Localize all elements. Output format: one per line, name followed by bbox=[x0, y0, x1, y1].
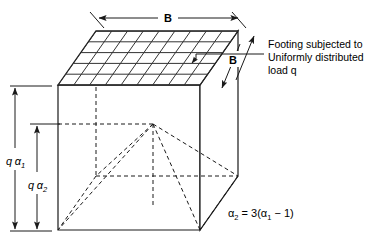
alpha-relation-equation: α2 = 3(α1 − 1) bbox=[228, 207, 294, 222]
dim-ext-left-tick bbox=[90, 12, 104, 28]
dimension-q-alpha1: qα1 bbox=[4, 86, 52, 231]
footing-note-text: Footing subjected to Uniformly distribut… bbox=[268, 38, 364, 76]
block-front-face bbox=[58, 85, 200, 230]
note-line-2: Uniformly distributed bbox=[268, 51, 364, 63]
top-dimension-B: B bbox=[90, 9, 246, 28]
dimension-q-alpha2: qα2 bbox=[26, 124, 60, 229]
footing-pressure-diagram: B B Footing subjected to Uniformly distr… bbox=[0, 0, 374, 242]
top-dimension-label: B bbox=[164, 12, 172, 24]
dim-ext-right-tick bbox=[232, 12, 246, 28]
note-line-3: load q bbox=[268, 64, 297, 76]
note-line-1: Footing subjected to bbox=[268, 38, 363, 50]
diagram-canvas: B B Footing subjected to Uniformly distr… bbox=[0, 0, 374, 242]
side-dimension-label: B bbox=[229, 54, 237, 66]
